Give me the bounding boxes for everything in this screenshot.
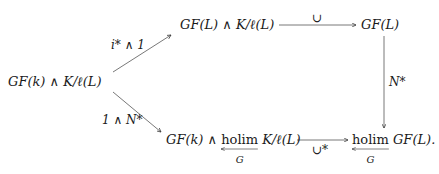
holim-text: holim bbox=[221, 132, 258, 147]
label-cup-star: ∪* bbox=[312, 143, 328, 157]
node-bottom-middle: GF(k) ∧ holimG K/ℓ(L) bbox=[166, 132, 300, 148]
holim-operator: holimG bbox=[221, 132, 258, 148]
node-left: GF(k) ∧ K/ℓ(L) bbox=[8, 74, 102, 90]
label-cup: ∪ bbox=[312, 11, 322, 25]
label-1-wedge-n-star: 1 ∧ N* bbox=[102, 113, 143, 127]
holim-operator: holimG bbox=[352, 132, 389, 148]
holim-text: holim bbox=[352, 132, 389, 147]
holim-subscript: G bbox=[366, 152, 374, 168]
bottom-right-suffix: GF(L). bbox=[389, 132, 435, 147]
node-top-middle: GF(L) ∧ K/ℓ(L) bbox=[180, 17, 274, 33]
left-arrow-icon bbox=[352, 147, 389, 151]
node-top-right: GF(L) bbox=[361, 17, 399, 33]
left-arrow-icon bbox=[221, 147, 258, 151]
bottom-middle-prefix: GF(k) ∧ bbox=[166, 132, 221, 147]
node-bottom-right: holimG GF(L). bbox=[352, 132, 435, 148]
label-n-star: N* bbox=[389, 75, 406, 89]
bottom-middle-suffix: K/ℓ(L) bbox=[258, 132, 300, 147]
label-i-star-wedge-1: i* ∧ 1 bbox=[111, 38, 145, 52]
holim-subscript: G bbox=[236, 152, 244, 168]
